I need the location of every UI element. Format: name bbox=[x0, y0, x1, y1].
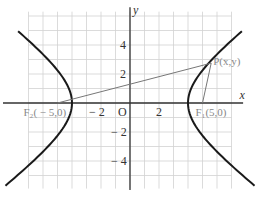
point-p-label: P(x,y) bbox=[213, 55, 241, 68]
y-tick-label: − 4 bbox=[111, 154, 127, 168]
y-axis-label: y bbox=[132, 3, 139, 17]
y-tick-label: 4 bbox=[120, 38, 126, 52]
x-axis-label: x bbox=[238, 88, 245, 102]
y-tick-label: 2 bbox=[120, 67, 126, 81]
y-tick-label: − 2 bbox=[111, 125, 127, 139]
hyperbola-diagram: x y O − 22 42− 2− 4 F₁(5,0) F₂( − 5,0) P… bbox=[0, 0, 261, 202]
x-tick-label: − 2 bbox=[89, 105, 105, 119]
focus-f1-label: F₁(5,0) bbox=[196, 106, 227, 119]
origin-label: O bbox=[118, 105, 127, 119]
x-tick-label: 2 bbox=[156, 105, 162, 119]
focus-f2-label: F₂( − 5,0) bbox=[24, 106, 67, 119]
